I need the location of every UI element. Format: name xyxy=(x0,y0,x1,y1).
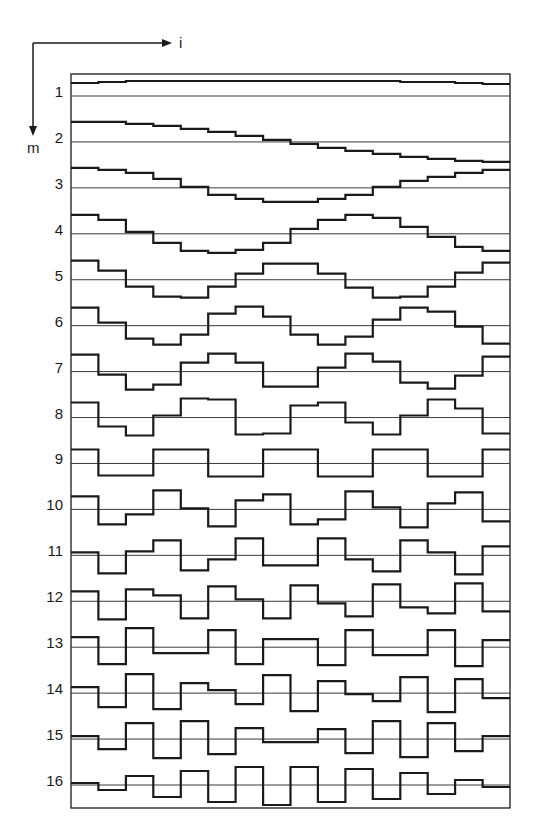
row-label: 3 xyxy=(55,175,63,192)
basis-row-16: 16 xyxy=(46,767,510,805)
row-label: 4 xyxy=(55,221,63,238)
row-label: 6 xyxy=(55,313,63,330)
basis-function-figure: i m 12345678910111213141516 xyxy=(0,0,541,840)
row-label: 16 xyxy=(46,772,63,789)
m-axis-arrowhead-icon xyxy=(29,126,37,136)
m-axis-label: m xyxy=(27,139,40,156)
row-label: 2 xyxy=(55,129,63,146)
step-waveform xyxy=(71,721,510,758)
basis-row-10: 10 xyxy=(46,490,510,527)
step-waveform xyxy=(71,399,510,436)
step-waveform xyxy=(71,261,510,298)
i-axis-arrowhead-icon xyxy=(162,39,172,47)
basis-row-12: 12 xyxy=(46,583,510,619)
row-label: 15 xyxy=(46,726,63,743)
row-label: 5 xyxy=(55,267,63,284)
basis-row-1: 1 xyxy=(55,81,510,100)
basis-row-6: 6 xyxy=(55,307,510,345)
basis-row-9: 9 xyxy=(55,450,510,477)
row-label: 9 xyxy=(55,450,63,467)
step-waveform xyxy=(71,538,510,574)
basis-row-14: 14 xyxy=(46,674,510,712)
row-label: 12 xyxy=(46,588,63,605)
row-label: 11 xyxy=(47,542,63,559)
basis-row-3: 3 xyxy=(55,168,510,202)
step-waveform xyxy=(71,81,510,84)
basis-row-7: 7 xyxy=(55,354,510,390)
basis-rows: 12345678910111213141516 xyxy=(46,81,510,805)
i-axis-label: i xyxy=(179,34,182,51)
row-label: 8 xyxy=(55,405,63,422)
basis-row-15: 15 xyxy=(46,721,510,758)
row-label: 7 xyxy=(55,359,63,376)
basis-row-13: 13 xyxy=(46,628,510,666)
basis-row-5: 5 xyxy=(55,261,510,298)
basis-row-2: 2 xyxy=(55,122,510,162)
step-waveform xyxy=(71,767,510,805)
row-label: 10 xyxy=(46,496,63,513)
axis-indicator: i m xyxy=(27,34,182,156)
basis-row-4: 4 xyxy=(55,215,510,253)
step-waveform xyxy=(71,168,510,202)
row-label: 13 xyxy=(46,634,63,651)
row-label: 14 xyxy=(46,680,63,697)
basis-row-8: 8 xyxy=(55,399,510,436)
basis-row-11: 11 xyxy=(47,538,510,574)
row-label: 1 xyxy=(55,83,63,100)
